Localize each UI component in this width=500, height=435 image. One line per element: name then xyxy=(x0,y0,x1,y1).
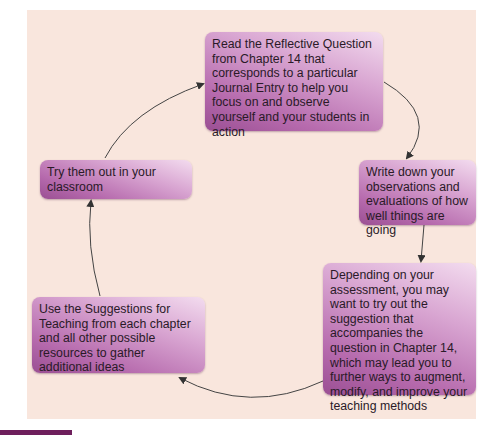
step-text: Try them out in your classroom xyxy=(47,165,156,194)
arrow-depending-to-use xyxy=(180,378,323,397)
step-text: Use the Suggestions for Teaching from ea… xyxy=(39,302,191,374)
arrow-read-to-write xyxy=(384,82,419,158)
step-text: Depending on your assessment, you may wa… xyxy=(330,268,467,413)
step-use-suggestions: Use the Suggestions for Teaching from ea… xyxy=(32,297,205,373)
step-depending-on-assessment: Depending on your assessment, you may wa… xyxy=(323,263,476,395)
step-read-reflective-question: Read the Reflective Question from Chapte… xyxy=(205,32,383,131)
arrow-use-to-try xyxy=(90,201,100,296)
arrow-write-to-depending xyxy=(421,225,424,261)
step-try-in-classroom: Try them out in your classroom xyxy=(40,160,192,199)
caption-label-block xyxy=(0,430,72,435)
step-write-observations: Write down your observations and evaluat… xyxy=(359,160,476,225)
caption-text-cutoff xyxy=(84,428,484,435)
arrow-try-to-read xyxy=(105,84,203,158)
step-text: Read the Reflective Question from Chapte… xyxy=(212,37,372,139)
